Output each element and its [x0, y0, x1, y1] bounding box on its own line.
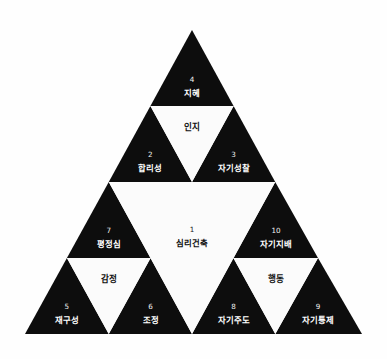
domain-label-cognition: 인지 [184, 121, 200, 132]
node-label-10: 자기지배 [260, 239, 292, 249]
node-number-7: 7 [106, 226, 111, 235]
node-number-2: 2 [148, 150, 153, 159]
sierpinski-diagram: 4 지혜 2 합리성 3 자기성찰 인지 7 평정심 5 재구성 6 조정 감정 [0, 0, 387, 359]
node-label-2: 합리성 [138, 163, 162, 173]
node-number-10: 10 [271, 226, 281, 235]
node-number-8: 8 [231, 302, 236, 311]
node-label-9: 자기통제 [302, 315, 334, 325]
node-label-8: 자기주도 [218, 315, 250, 325]
domain-label-behavior: 행동 [268, 273, 284, 284]
fractal-canvas: 4 지혜 2 합리성 3 자기성찰 인지 7 평정심 5 재구성 6 조정 감정 [0, 0, 387, 359]
node-label-7: 평정심 [97, 239, 121, 249]
node-number-4: 4 [190, 75, 195, 84]
center-label-1: 심리건축 [176, 238, 208, 248]
node-label-5: 재구성 [55, 315, 79, 325]
center-number-1: 1 [190, 225, 195, 234]
node-label-3: 자기성찰 [218, 163, 250, 173]
node-number-5: 5 [65, 302, 70, 311]
node-number-3: 3 [231, 150, 236, 159]
node-number-9: 9 [316, 302, 321, 311]
domain-label-emotion: 감정 [101, 273, 117, 284]
node-label-6: 조정 [143, 315, 159, 325]
node-number-6: 6 [148, 302, 153, 311]
node-label-4: 지혜 [184, 88, 200, 98]
